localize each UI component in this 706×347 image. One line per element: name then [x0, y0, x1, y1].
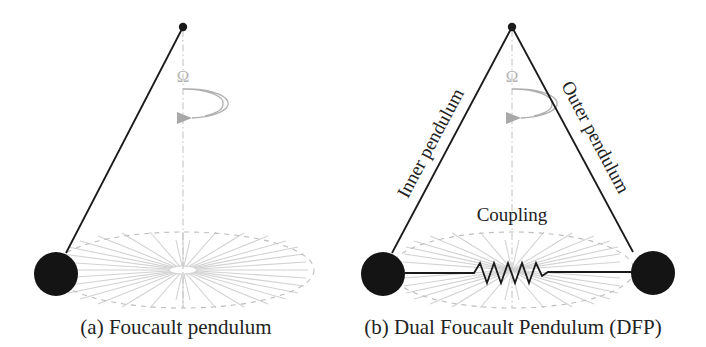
rotation-arrow-icon [177, 89, 228, 124]
inner-pendulum-label: Inner pendulum [393, 84, 468, 201]
outer-pendulum-label: Outer pendulum [557, 77, 634, 197]
panel-b-dual-foucault-pendulum: Ω Inner pendulum Outer pendulum Coupling… [361, 23, 675, 339]
pendulum-string [66, 27, 183, 253]
pivot-point [179, 23, 187, 31]
pendulum-bob [34, 252, 78, 296]
panel-a-foucault-pendulum: Ω (a) Foucault pendulum [34, 23, 314, 339]
coupling-label: Coupling [477, 204, 548, 225]
rotation-arrow-icon [506, 89, 557, 124]
omega-symbol: Ω [506, 67, 519, 86]
pivot-point [508, 23, 516, 31]
caption-b: (b) Dual Foucault Pendulum (DFP) [364, 315, 661, 339]
omega-symbol: Ω [177, 67, 190, 86]
outer-pendulum-bob [631, 251, 675, 295]
caption-a: (a) Foucault pendulum [80, 315, 271, 339]
inner-pendulum-bob [361, 252, 405, 296]
figure: Ω (a) Foucault pendulum [0, 0, 706, 347]
